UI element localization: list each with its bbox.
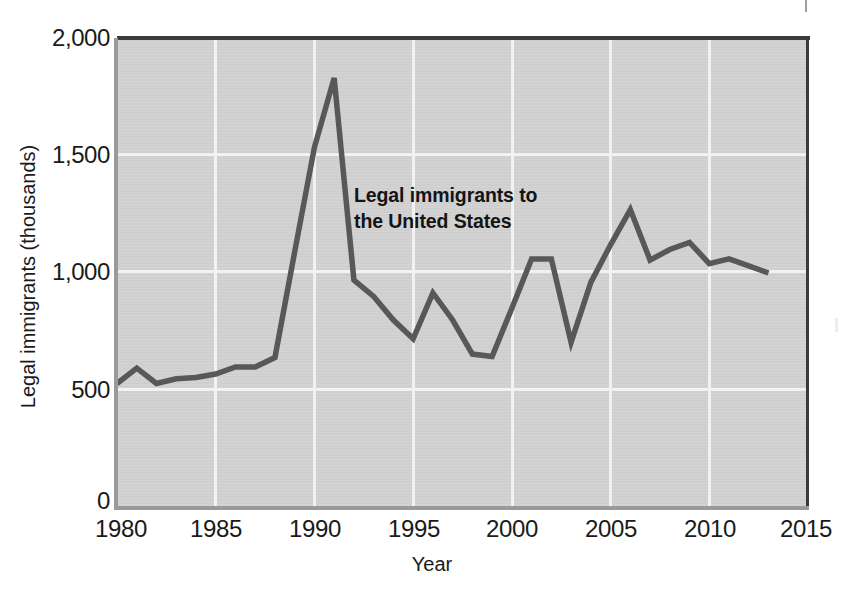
series-annotation-label: Legal immigrants to the United States (354, 183, 537, 235)
x-axis-title: Year (0, 553, 854, 576)
plot-area: Legal immigrants to the United States (117, 38, 808, 508)
y-tick-0: 0 (18, 487, 110, 515)
y-axis-title: Legal immigrants (thousands) (17, 67, 40, 487)
data-series-line (117, 38, 808, 508)
x-axis-title-text: Year (412, 553, 452, 575)
scan-artifact-mark-right (835, 318, 838, 332)
plot-frame-top (117, 36, 810, 40)
legal-immigrants-line-chart: Legal immigrants to the United States 2,… (0, 0, 854, 595)
y-axis-line (114, 38, 118, 510)
x-tick-2015: 2015 (746, 515, 854, 543)
plot-frame-right (806, 38, 809, 510)
scan-artifact-mark (805, 0, 807, 12)
x-axis-line (114, 506, 809, 510)
y-tick-2000: 2,000 (18, 24, 110, 52)
